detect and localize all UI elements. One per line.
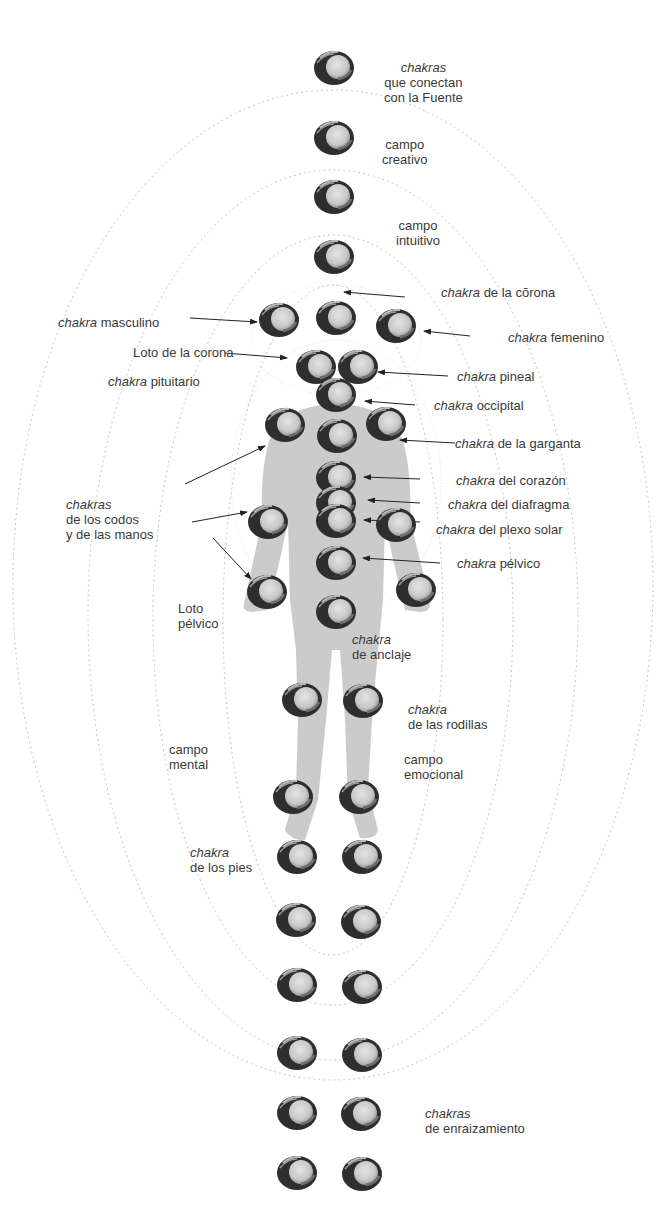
chakra-sphere-icon-enraiz-3-izq xyxy=(277,1036,317,1070)
chakra-sphere-icon-enraiz-4-izq xyxy=(277,1096,317,1130)
label-codos-line2: de los codos xyxy=(66,512,139,527)
label-chakras-codos-manos: chakras de los codos y de las manos xyxy=(66,497,153,542)
label-mental-line1: campo xyxy=(169,742,208,757)
label-pies-italic: chakra xyxy=(190,845,229,860)
label-pineal-italic: chakra xyxy=(457,369,496,384)
arrow-icon xyxy=(344,292,405,297)
label-campo-emocional: campo emocional xyxy=(404,752,463,782)
chakra-sphere-icon-tobillo-izq xyxy=(273,780,313,814)
chakra-sphere-icon-enraiz-1-der xyxy=(341,905,381,939)
arrow-icon xyxy=(424,331,470,336)
label-plexo-rest: del plexo solar xyxy=(475,522,562,537)
label-pituitario-rest: pituitario xyxy=(147,374,200,389)
label-diafragma-rest: del diafragma xyxy=(487,497,569,512)
chakra-sphere-icon-enraiz-5-izq xyxy=(277,1156,317,1190)
label-codos-italic: chakras xyxy=(66,497,112,512)
label-loto-corona: Loto de la corona xyxy=(133,345,233,360)
label-chakra-masculino: chakra masculino xyxy=(58,315,159,330)
label-chakra-occipital: chakra occipital xyxy=(434,398,524,413)
label-enraizamiento-line2: de enraizamiento xyxy=(425,1121,525,1136)
label-fuente-italic: chakras xyxy=(401,60,447,75)
label-rodillas-italic: chakra xyxy=(408,702,447,717)
label-chakra-pelvico: chakra pélvico xyxy=(457,556,540,571)
label-garganta-italic: chakra xyxy=(455,436,494,451)
chakra-diagram xyxy=(0,0,667,1231)
label-fuente-line3: con la Fuente xyxy=(384,90,463,105)
chakra-sphere-icon-anclaje xyxy=(316,595,356,629)
label-pelvico-italic: chakra xyxy=(457,556,496,571)
label-campo-intuitivo: campo intuitivo xyxy=(396,218,440,248)
chakra-sphere-icon-tobillo-der xyxy=(339,780,379,814)
chakra-sphere-icon-enraiz-5-der xyxy=(342,1157,382,1191)
label-pineal-rest: pineal xyxy=(496,369,534,384)
label-chakra-plexo-solar: chakra del plexo solar xyxy=(436,522,562,537)
arrow-icon xyxy=(365,401,415,405)
label-mental-line2: mental xyxy=(169,757,208,772)
chakra-sphere-icon-rodilla-der xyxy=(343,684,383,718)
label-enraizamiento-italic: chakras xyxy=(425,1106,471,1121)
label-pelvico-rest: pélvico xyxy=(496,556,540,571)
chakra-sphere-icon-fuente-1 xyxy=(314,51,354,85)
chakra-sphere-icon-mano-der xyxy=(396,573,436,607)
label-chakra-corazon: chakra del corazón xyxy=(456,473,566,488)
label-creativo-line1: campo xyxy=(385,137,424,152)
arrow-icon xyxy=(213,538,251,579)
label-chakra-pies: chakra de los pies xyxy=(190,845,252,875)
label-codos-line3: y de las manos xyxy=(66,527,153,542)
label-garganta-rest: de la garganta xyxy=(494,436,581,451)
chakra-sphere-icon-enraiz-1-izq xyxy=(276,903,316,937)
label-femenino-rest: femenino xyxy=(547,330,604,345)
label-masculino-italic: chakra xyxy=(58,315,97,330)
label-diafragma-italic: chakra xyxy=(448,497,487,512)
label-chakra-femenino: chakra femenino xyxy=(508,330,604,345)
label-chakra-anclaje: chakra de anclaje xyxy=(352,632,411,662)
label-emocional-line2: emocional xyxy=(404,767,463,782)
chakra-sphere-icon-pineal xyxy=(338,350,378,384)
label-pies-line2: de los pies xyxy=(190,860,252,875)
chakra-sphere-icon-enraiz-2-izq xyxy=(277,968,317,1002)
label-emocional-line1: campo xyxy=(404,752,443,767)
label-chakra-corona: chakra de la cŏrona xyxy=(441,285,555,300)
chakra-sphere-icon-rodilla-izq xyxy=(282,683,322,717)
arrow-icon xyxy=(192,512,247,522)
arrow-icon xyxy=(185,446,265,484)
chakra-sphere-icon-femenino xyxy=(376,309,416,343)
label-pituitario-italic: chakra xyxy=(108,374,147,389)
label-anclaje-line2: de anclaje xyxy=(352,647,411,662)
chakra-sphere-icon-fuente-2 xyxy=(314,121,354,155)
chakra-sphere-icon-codo-der xyxy=(376,508,416,542)
chakra-sphere-icon-fuente-3 xyxy=(314,180,354,214)
label-rodillas-line2: de las rodillas xyxy=(408,717,488,732)
arrow-icon xyxy=(378,372,448,376)
label-chakra-rodillas: chakra de las rodillas xyxy=(408,702,488,732)
label-loto-pelvico-line1: Loto xyxy=(178,601,203,616)
chakra-sphere-icon-pelvico xyxy=(316,546,356,580)
label-chakra-garganta: chakra de la garganta xyxy=(455,436,581,451)
chakra-sphere-icon-pie-der xyxy=(342,840,382,874)
arrow-icon xyxy=(225,353,287,358)
arrow-icon xyxy=(400,440,455,443)
label-anclaje-italic: chakra xyxy=(352,632,391,647)
label-campo-mental: campo mental xyxy=(169,742,208,772)
label-corona-italic: chakra xyxy=(441,285,480,300)
chakra-sphere-icon-enraiz-4-der xyxy=(341,1097,381,1131)
label-chakra-diafragma: chakra del diafragma xyxy=(448,497,569,512)
chakra-sphere-icon-codo-izq xyxy=(248,505,288,539)
chakra-sphere-icon-fuente-4 xyxy=(314,240,354,274)
label-chakras-enraizamiento: chakras de enraizamiento xyxy=(425,1106,525,1136)
label-chakra-pituitario: chakra pituitario xyxy=(108,374,200,389)
chakra-sphere-icon-hombro-izq xyxy=(265,408,305,442)
label-loto-pelvico-line2: pélvico xyxy=(178,616,218,631)
label-loto-corona-text: Loto de la corona xyxy=(133,345,233,360)
chakra-sphere-icon-plexo-solar xyxy=(316,504,356,538)
label-corazon-rest: del corazón xyxy=(495,473,566,488)
label-chakra-pineal: chakra pineal xyxy=(457,369,534,384)
label-fuente: chakras que conectan con la Fuente xyxy=(384,60,463,105)
label-creativo-line2: creativo xyxy=(382,152,428,167)
chakra-sphere-icon-hombro-der xyxy=(366,407,406,441)
chakra-sphere-icon-mano-izq xyxy=(247,575,287,609)
label-loto-pelvico: Loto pélvico xyxy=(178,601,218,631)
label-occipital-italic: chakra xyxy=(434,398,473,413)
label-occipital-rest: occipital xyxy=(473,398,524,413)
label-intuitivo-line1: campo xyxy=(399,218,438,233)
